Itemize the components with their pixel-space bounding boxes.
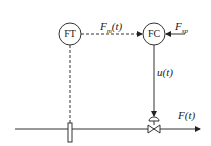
orifice-plate xyxy=(68,123,72,142)
setpoint-label: Fsp xyxy=(175,20,188,35)
control-loop-diagram: FT FC Fm(t) Fsp u(t) F(t) xyxy=(0,0,211,146)
measured-signal-label: Fm(t) xyxy=(100,20,122,35)
valve-actuator xyxy=(149,117,159,121)
fc-label: FC xyxy=(143,28,165,39)
ft-label: FT xyxy=(59,28,81,39)
control-signal-label: u(t) xyxy=(157,66,173,78)
flow-label: F(t) xyxy=(178,109,195,121)
control-valve xyxy=(148,125,160,133)
